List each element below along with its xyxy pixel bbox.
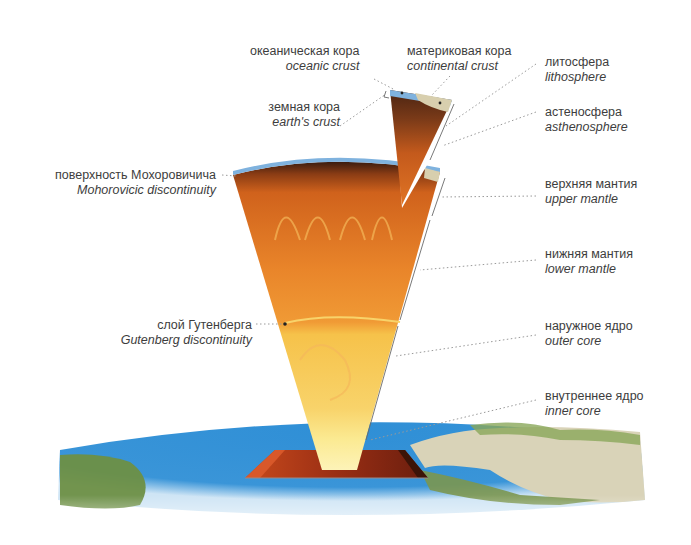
label-ru: астеносфера (545, 105, 628, 120)
label-ru: верхняя мантия (545, 177, 637, 192)
label-ru: литосфера (545, 55, 609, 70)
label-en: lithosphere (545, 70, 609, 85)
label-asthenosphere: астеносфера asthenosphere (545, 105, 628, 135)
label-ru: поверхность Мохоровичича (20, 168, 216, 183)
label-gutenberg: слой Гутенберга Gutenberg discontinuity (100, 318, 252, 348)
label-ru: океаническая кора (250, 44, 359, 59)
label-ru: слой Гутенберга (100, 318, 252, 333)
label-lithosphere: литосфера lithosphere (545, 55, 609, 85)
label-oceanic-crust: океаническая кора oceanic crust (250, 44, 359, 74)
label-en: lower mantle (545, 262, 633, 277)
label-ru: земная кора (255, 100, 340, 115)
label-en: asthenosphere (545, 120, 628, 135)
label-en: continental crust (407, 59, 511, 74)
label-inner-core: внутреннее ядро inner core (545, 389, 644, 419)
label-upper-mantle: верхняя мантия upper mantle (545, 177, 637, 207)
label-ru: внутреннее ядро (545, 389, 644, 404)
label-ru: материковая кора (407, 44, 511, 59)
label-en: earth's crust (255, 115, 340, 130)
label-outer-core: наружное ядро outer core (545, 319, 633, 349)
label-en: oceanic crust (250, 59, 359, 74)
label-en: outer core (545, 334, 633, 349)
label-en: inner core (545, 404, 644, 419)
label-lower-mantle: нижняя мантия lower mantle (545, 247, 633, 277)
label-moho: поверхность Мохоровичича Mohorovicic dis… (20, 168, 216, 198)
label-continental-crust: материковая кора continental crust (407, 44, 511, 74)
label-en: Gutenberg discontinuity (100, 333, 252, 348)
earth-layers-cone (233, 150, 440, 470)
label-en: upper mantle (545, 192, 637, 207)
label-en: Mohorovicic discontinuity (20, 183, 216, 198)
label-ru: наружное ядро (545, 319, 633, 334)
label-earths-crust: земная кора earth's crust (255, 100, 340, 130)
label-ru: нижняя мантия (545, 247, 633, 262)
